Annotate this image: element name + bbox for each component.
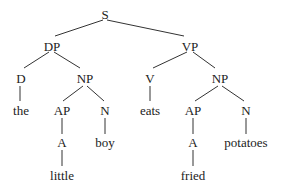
word-boy: boy <box>95 136 115 149</box>
node-n-subject: N <box>100 104 109 117</box>
node-np-subject: NP <box>77 72 94 85</box>
word-eats: eats <box>140 104 160 117</box>
node-vp: VP <box>182 40 199 53</box>
node-n-object: N <box>241 104 250 117</box>
word-potatoes: potatoes <box>224 136 267 149</box>
word-fried: fried <box>181 169 206 182</box>
node-d: D <box>16 72 25 85</box>
node-ap-subject: AP <box>54 104 71 117</box>
word-little: little <box>50 169 74 182</box>
node-dp: DP <box>44 40 61 53</box>
node-v: V <box>145 72 154 85</box>
node-ap-object: AP <box>185 104 202 117</box>
node-a-object: A <box>188 136 197 149</box>
node-s: S <box>101 8 108 21</box>
node-np-object: NP <box>212 72 229 85</box>
tree-edges <box>0 0 283 189</box>
word-the: the <box>13 104 29 117</box>
node-a-subject: A <box>57 136 66 149</box>
